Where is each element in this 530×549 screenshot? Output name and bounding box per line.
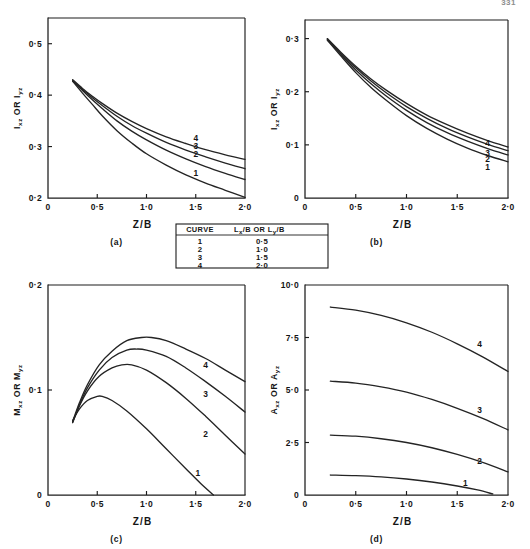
figure-root: 331 00·51·01·52·00·20·30·40·51234Z/BIxz … [0,0,530,549]
x-tick-label: 0·5 [349,499,362,509]
curve-legend: CURVELx/B OR Ly/B10·521·031·542·0 [176,224,328,270]
curve-3 [73,349,245,423]
x-tick-label: 1·5 [451,499,464,509]
curve-label-1: 1 [195,468,200,478]
y-tick-label: 0·4 [29,90,42,100]
curve-1 [330,475,492,494]
y-tick-label: 0·1 [286,140,299,150]
axis-lines [48,285,245,495]
curve-label-1: 1 [463,478,468,488]
x-tick-label: 0·5 [91,499,104,509]
curve-label-3: 3 [203,389,208,399]
y-tick-label: 10·0 [281,280,299,290]
curve-1 [73,396,214,495]
y-tick-label: 2·5 [286,438,299,448]
curve-label-4: 4 [485,138,490,148]
x-tick-label: 1·5 [189,499,202,509]
y-tick-label: 0·1 [29,385,42,395]
figure-canvas: 00·51·01·52·00·20·30·40·51234Z/BIxz OR I… [0,0,530,549]
x-tick-label: 2·0 [501,499,514,509]
y-axis-title: Ixz OR Iyz [269,88,280,130]
x-tick-label: 0 [45,499,50,509]
panel-b: 00·51·01·52·000·10·20·31234Z/BIxz OR Iyz… [269,20,515,247]
y-tick-label: 0·3 [286,34,299,44]
curve-label-2: 2 [203,429,208,439]
curve-label-3: 3 [477,405,482,415]
x-tick-label: 1·5 [451,202,464,212]
curve-label-4: 4 [193,133,198,143]
x-axis-title: Z/B [133,219,153,230]
legend-row-curve: 4 [198,261,203,270]
panel-caption: (d) [370,534,383,544]
x-tick-label: 1·0 [140,202,153,212]
panel-d: 00·51·01·52·002·55·07·510·01234Z/BAxz OR… [269,280,515,544]
y-tick-label: 0 [37,490,42,500]
y-tick-label: 0·2 [29,280,42,290]
panel-caption: (b) [370,237,383,247]
curve-3 [73,80,245,168]
y-tick-label: 7·5 [286,333,299,343]
x-tick-label: 1·0 [400,499,413,509]
y-tick-label: 5·0 [286,385,299,395]
x-axis-title: Z/B [393,219,413,230]
curve-4 [327,39,508,147]
y-tick-label: 0·2 [286,87,299,97]
y-tick-label: 0·5 [29,39,42,49]
y-tick-label: 0 [294,490,299,500]
y-axis-title: Ixz OR Iyz [12,87,23,129]
curve-3 [327,39,508,151]
x-axis-title: Z/B [133,516,153,527]
legend-header-curve: CURVE [186,225,214,234]
panel-c: 00·51·01·52·000·10·21234Z/BMxz OR Myz(c) [12,280,252,544]
x-tick-label: 1·5 [189,202,202,212]
curve-label-3: 3 [485,148,490,158]
x-axis-title: Z/B [393,516,413,527]
panel-caption: (c) [110,534,122,544]
curve-4 [73,80,245,160]
y-axis-title: Axz OR Ayz [269,365,280,414]
x-tick-label: 2·0 [238,499,251,509]
legend-row-ratio: 2·0 [256,261,269,270]
curve-2 [330,435,508,472]
y-tick-label: 0·3 [29,142,42,152]
y-axis-title: Mxz OR Myz [12,364,23,415]
curve-1 [327,40,508,162]
curve-4 [73,337,245,421]
x-tick-label: 1·0 [400,202,413,212]
curve-label-1: 1 [193,168,198,178]
y-tick-label: 0·2 [29,193,42,203]
x-tick-label: 2·0 [501,202,514,212]
x-tick-label: 1·0 [140,499,153,509]
curve-label-4: 4 [203,360,208,370]
panel-a: 00·51·01·52·00·20·30·40·51234Z/BIxz OR I… [12,18,252,247]
x-tick-label: 0 [302,499,307,509]
x-tick-label: 0 [45,202,50,212]
x-tick-label: 0·5 [91,202,104,212]
x-tick-label: 2·0 [238,202,251,212]
curve-label-2: 2 [477,456,482,466]
axis-lines [48,18,245,198]
x-tick-label: 0 [302,202,307,212]
panel-caption: (a) [110,237,122,247]
x-tick-label: 0·5 [349,202,362,212]
y-tick-label: 0 [294,193,299,203]
curve-label-4: 4 [477,339,482,349]
curve-2 [73,81,245,180]
